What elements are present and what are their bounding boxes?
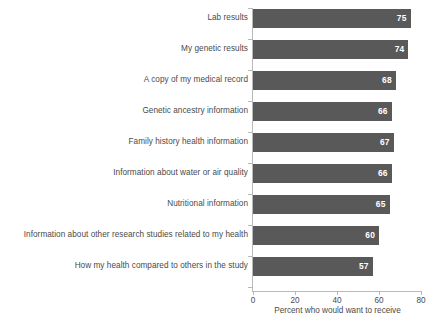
y-axis-tick xyxy=(248,194,252,195)
bar: 67 xyxy=(253,133,394,152)
bar: 74 xyxy=(253,40,408,59)
bar-row: Family history health information67 xyxy=(0,132,435,163)
y-axis-tick xyxy=(248,225,252,226)
category-label: Information about water or air quality xyxy=(8,166,248,179)
bar-track: 74 xyxy=(253,40,435,59)
x-axis-tick xyxy=(337,291,338,295)
bar: 66 xyxy=(253,102,392,121)
bar: 60 xyxy=(253,226,379,245)
x-axis-tick xyxy=(421,291,422,295)
bar-row: Genetic ancestry information66 xyxy=(0,101,435,132)
bar-track: 57 xyxy=(253,257,435,276)
bar-value-label: 67 xyxy=(380,133,390,152)
bar-value-label: 65 xyxy=(376,195,386,214)
bar: 66 xyxy=(253,164,392,183)
x-axis-title: Percent who would want to receive xyxy=(253,306,422,315)
bar-value-label: 66 xyxy=(378,164,388,183)
bar-row: A copy of my medical record68 xyxy=(0,70,435,101)
bar-chart: Lab results75My genetic results74A copy … xyxy=(0,0,435,318)
bar-track: 60 xyxy=(253,226,435,245)
bar-row: My genetic results74 xyxy=(0,39,435,70)
bar-value-label: 60 xyxy=(365,226,375,245)
plot-area: Lab results75My genetic results74A copy … xyxy=(0,0,435,318)
bar-rows: Lab results75My genetic results74A copy … xyxy=(0,8,435,287)
x-axis-tick-label: 40 xyxy=(332,296,341,305)
bar-row: Information about other research studies… xyxy=(0,225,435,256)
bar-track: 66 xyxy=(253,164,435,183)
bar-value-label: 74 xyxy=(395,40,405,59)
y-axis-tick xyxy=(248,163,252,164)
bar-value-label: 66 xyxy=(378,102,388,121)
category-label: A copy of my medical record xyxy=(8,73,248,86)
y-axis-tick xyxy=(248,256,252,257)
bar-value-label: 75 xyxy=(397,9,407,28)
bar-row: Nutritional information65 xyxy=(0,194,435,225)
category-label: Nutritional information xyxy=(8,197,248,210)
x-axis-tick-label: 80 xyxy=(416,296,425,305)
bar: 68 xyxy=(253,71,396,90)
x-axis-tick xyxy=(295,291,296,295)
y-axis-tick xyxy=(248,39,252,40)
x-axis-tick xyxy=(253,291,254,295)
y-axis-tick xyxy=(248,132,252,133)
bar-row: How my health compared to others in the … xyxy=(0,256,435,287)
bar: 65 xyxy=(253,195,390,214)
bar-value-label: 57 xyxy=(359,257,369,276)
bar: 75 xyxy=(253,9,411,28)
bar-value-label: 68 xyxy=(382,71,392,90)
bar-track: 75 xyxy=(253,9,435,28)
y-axis-tick xyxy=(248,101,252,102)
y-axis-tick xyxy=(248,70,252,71)
category-label: Family history health information xyxy=(8,135,248,148)
bar: 57 xyxy=(253,257,373,276)
x-axis-tick-label: 20 xyxy=(290,296,299,305)
y-axis-tick xyxy=(248,287,252,288)
x-axis-tick-label: 0 xyxy=(251,296,256,305)
y-axis-line xyxy=(252,8,253,291)
bar-track: 66 xyxy=(253,102,435,121)
bar-track: 68 xyxy=(253,71,435,90)
bar-track: 65 xyxy=(253,195,435,214)
category-label: How my health compared to others in the … xyxy=(8,259,248,272)
category-label: Lab results xyxy=(8,11,248,24)
bar-row: Lab results75 xyxy=(0,8,435,39)
bar-row: Information about water or air quality66 xyxy=(0,163,435,194)
y-axis-tick xyxy=(248,8,252,9)
category-label: Information about other research studies… xyxy=(8,228,248,241)
bar-track: 67 xyxy=(253,133,435,152)
x-axis-tick-label: 60 xyxy=(374,296,383,305)
category-label: My genetic results xyxy=(8,42,248,55)
category-label: Genetic ancestry information xyxy=(8,104,248,117)
x-axis-tick xyxy=(379,291,380,295)
